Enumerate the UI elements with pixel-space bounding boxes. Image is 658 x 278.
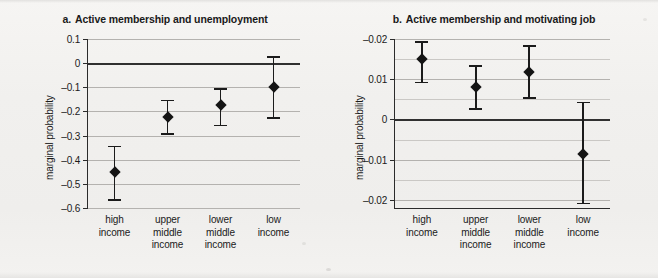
x-axis-label-line: middle bbox=[514, 227, 546, 240]
error-bar-point bbox=[267, 39, 281, 208]
figure-container: a.Active membership and unemployment mar… bbox=[0, 0, 658, 278]
y-axis-tick bbox=[83, 208, 88, 209]
error-bar-cap-upper bbox=[577, 102, 590, 104]
y-axis-tick-label: 0.1 bbox=[67, 34, 80, 45]
y-axis-tick bbox=[390, 79, 395, 80]
panel-a-plot-area: 0.10–0.1–0.2–0.3–0.4–0.5–0.6highincomeup… bbox=[87, 39, 300, 209]
error-bar-point bbox=[415, 39, 429, 208]
error-bar-cap-upper bbox=[108, 146, 121, 148]
panel-b: b.Active membership and motivating job m… bbox=[330, 0, 658, 278]
y-axis-tick-label: –0.3 bbox=[61, 130, 80, 141]
y-axis-tick bbox=[83, 87, 88, 88]
y-axis-tick bbox=[83, 39, 88, 40]
y-axis-tick bbox=[83, 63, 88, 64]
x-axis-label-line: income bbox=[567, 227, 599, 240]
error-bar-cap-lower bbox=[415, 82, 428, 84]
panel-b-title-text: Active membership and motivating job bbox=[406, 13, 596, 25]
x-axis-label-line: upper bbox=[152, 214, 184, 227]
y-axis-tick-label: –0.5 bbox=[61, 178, 80, 189]
y-axis-tick bbox=[390, 119, 395, 120]
error-bar-cap-lower bbox=[108, 199, 121, 201]
x-axis-category-label: lowermiddleincome bbox=[205, 214, 237, 252]
panel-b-label: b. bbox=[393, 13, 402, 25]
y-axis-tick-label: 0.01 bbox=[368, 74, 387, 85]
x-axis-label-line: lower bbox=[514, 214, 546, 227]
x-axis-label-line: high bbox=[406, 214, 438, 227]
gridline-major bbox=[88, 208, 300, 209]
x-axis-category-label: lowincome bbox=[567, 214, 599, 239]
x-axis-label-line: low bbox=[567, 214, 599, 227]
x-axis-label-line: middle bbox=[152, 227, 184, 240]
data-point-marker bbox=[470, 82, 481, 93]
y-axis-tick bbox=[83, 160, 88, 161]
x-axis-label-line: income bbox=[460, 239, 492, 252]
y-axis-tick-label: 0 bbox=[75, 58, 80, 69]
y-axis-tick-label: –0.02 bbox=[363, 194, 387, 205]
y-axis-tick bbox=[83, 111, 88, 112]
error-bar-point bbox=[161, 39, 175, 208]
error-bar-point bbox=[469, 39, 483, 208]
panel-b-plot-area: –0.020.010–0.01–0.02highincomeuppermiddl… bbox=[394, 39, 610, 209]
data-point-marker bbox=[577, 148, 588, 159]
y-axis-tick-label: –0.6 bbox=[61, 203, 80, 214]
data-point-marker bbox=[416, 53, 427, 64]
x-axis-label-line: low bbox=[258, 214, 290, 227]
error-bar-cap-lower bbox=[161, 133, 174, 135]
panel-a-title: a.Active membership and unemployment bbox=[0, 13, 330, 25]
x-axis-label-line: income bbox=[258, 227, 290, 240]
x-axis-label-line: middle bbox=[205, 227, 237, 240]
error-bar-cap-lower bbox=[523, 97, 536, 99]
data-point-marker bbox=[215, 100, 226, 111]
x-axis-label-line: income bbox=[514, 239, 546, 252]
x-axis-label-line: middle bbox=[460, 227, 492, 240]
y-axis-tick bbox=[390, 200, 395, 201]
panel-b-title: b.Active membership and motivating job bbox=[330, 13, 658, 25]
x-axis-category-label: lowincome bbox=[258, 214, 290, 239]
data-point-marker bbox=[268, 82, 279, 93]
error-bar-cap-upper bbox=[161, 100, 174, 102]
error-bar-cap-lower bbox=[469, 108, 482, 110]
panel-a-label: a. bbox=[62, 13, 71, 25]
error-bar-cap-upper bbox=[523, 45, 536, 47]
y-axis-tick-label: –0.2 bbox=[61, 106, 80, 117]
x-axis-label-line: high bbox=[99, 214, 131, 227]
panel-b-y-axis-title: marginal probability bbox=[354, 95, 365, 180]
error-bar-cap-lower bbox=[267, 117, 280, 119]
data-point-marker bbox=[524, 66, 535, 77]
x-axis-label-line: upper bbox=[460, 214, 492, 227]
x-axis-label-line: income bbox=[205, 239, 237, 252]
error-bar-cap-lower bbox=[577, 203, 590, 205]
x-axis-label-line: income bbox=[406, 227, 438, 240]
x-axis-label-line: lower bbox=[205, 214, 237, 227]
data-point-marker bbox=[162, 112, 173, 123]
y-axis-tick bbox=[390, 39, 395, 40]
error-bar-cap-upper bbox=[214, 88, 227, 90]
x-axis-category-label: lowermiddleincome bbox=[514, 214, 546, 252]
panel-a: a.Active membership and unemployment mar… bbox=[0, 0, 330, 278]
x-axis-label-line: income bbox=[99, 227, 131, 240]
y-axis-tick-label: –0.4 bbox=[61, 154, 80, 165]
y-axis-tick-label: –0.1 bbox=[61, 82, 80, 93]
panel-a-y-axis-title: marginal probability bbox=[44, 95, 55, 180]
data-point-marker bbox=[109, 166, 120, 177]
error-bar-point bbox=[214, 39, 228, 208]
error-bar-point bbox=[576, 39, 590, 208]
y-axis-tick bbox=[83, 184, 88, 185]
y-axis-tick-label: –0.01 bbox=[363, 154, 387, 165]
y-axis-tick-label: 0 bbox=[382, 114, 387, 125]
y-axis-tick bbox=[390, 160, 395, 161]
error-bar-cap-upper bbox=[415, 41, 428, 43]
error-bar-point bbox=[108, 39, 122, 208]
error-bar-cap-upper bbox=[469, 65, 482, 67]
y-axis-tick-label: –0.02 bbox=[363, 34, 387, 45]
panel-a-title-text: Active membership and unemployment bbox=[75, 13, 268, 25]
x-axis-category-label: uppermiddleincome bbox=[152, 214, 184, 252]
error-bar-cap-upper bbox=[267, 56, 280, 58]
x-axis-category-label: highincome bbox=[99, 214, 131, 239]
error-bar-point bbox=[522, 39, 536, 208]
y-axis-tick bbox=[83, 136, 88, 137]
x-axis-category-label: highincome bbox=[406, 214, 438, 239]
x-axis-category-label: uppermiddleincome bbox=[460, 214, 492, 252]
x-axis-label-line: income bbox=[152, 239, 184, 252]
error-bar-cap-lower bbox=[214, 125, 227, 127]
